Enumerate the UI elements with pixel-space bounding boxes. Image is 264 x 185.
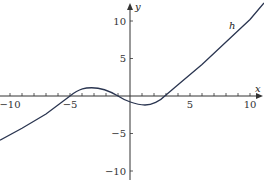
y-tick-label: 10 xyxy=(113,16,126,27)
curve-h xyxy=(0,3,264,140)
y-axis-arrow-icon xyxy=(127,3,133,10)
x-tick-label: −10 xyxy=(0,99,21,110)
y-tick-label: −5 xyxy=(111,128,126,139)
x-axis-label: x xyxy=(255,83,261,94)
x-tick-label: 10 xyxy=(244,99,257,110)
x-tick-label: 5 xyxy=(187,99,193,110)
function-graph: −10 −5 5 10 10 5 −5 −10 x y h xyxy=(0,0,264,185)
curve-label-h: h xyxy=(229,20,235,31)
y-tick-label: 5 xyxy=(120,53,126,64)
y-axis-label: y xyxy=(134,1,141,12)
y-tick-label: −10 xyxy=(105,166,126,177)
